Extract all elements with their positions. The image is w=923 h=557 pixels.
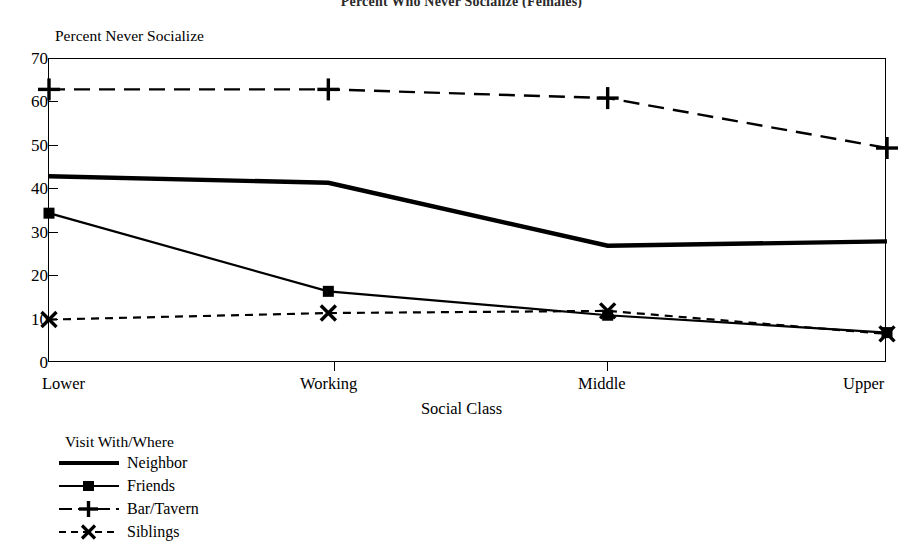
- series-line-friends: [49, 213, 887, 332]
- legend-label-siblings: Siblings: [123, 522, 179, 541]
- legend-item-neighbor: Neighbor: [57, 451, 357, 474]
- chart-title: Percent Who Never Socialize (Females): [0, 0, 923, 8]
- legend-swatch-siblings-icon: [57, 522, 123, 542]
- legend-label-friends: Friends: [123, 476, 175, 495]
- x-tick-label-working: Working: [300, 374, 357, 393]
- legend-swatch-friends-icon: [57, 476, 123, 496]
- series-line-neighbor: [49, 176, 887, 245]
- series-line-siblings: [49, 311, 887, 334]
- legend-item-bar-tavern: Bar/Tavern: [57, 497, 357, 520]
- y-tick-label-60: 60: [8, 93, 48, 110]
- x-tick-label-middle: Middle: [578, 374, 626, 393]
- series-line-bar-tavern: [49, 89, 887, 148]
- y-axis-title: Percent Never Socialize: [55, 27, 204, 45]
- x-tick-mark-middle: [607, 362, 608, 371]
- chart-legend: Visit With/Where Neighbor Friends: [57, 432, 357, 543]
- legend-item-siblings: Siblings: [57, 520, 357, 543]
- plot-lines: [49, 59, 887, 363]
- y-tick-label-70: 70: [8, 50, 48, 67]
- data-point-bar-tavern-middle: [597, 87, 619, 109]
- legend-swatch-neighbor-icon: [57, 453, 123, 473]
- data-point-friends-lower: [44, 208, 55, 219]
- legend-label-bar-tavern: Bar/Tavern: [123, 499, 199, 518]
- legend-swatch-bar-tavern-icon: [57, 499, 123, 519]
- y-tick-label-40: 40: [8, 180, 48, 197]
- legend-label-neighbor: Neighbor: [123, 453, 187, 472]
- x-tick-label-lower: Lower: [42, 374, 85, 393]
- x-axis-title: Social Class: [0, 399, 923, 418]
- y-tick-label-20: 20: [8, 267, 48, 284]
- data-point-bar-tavern-upper: [876, 137, 898, 159]
- chart-figure: Percent Who Never Socialize (Females) Pe…: [0, 0, 923, 557]
- plot-area: [48, 58, 886, 362]
- x-tick-mark-working: [334, 362, 335, 371]
- y-tick-label-50: 50: [8, 137, 48, 154]
- y-tick-label-0: 0: [8, 354, 48, 371]
- y-tick-label-30: 30: [8, 224, 48, 241]
- data-point-friends-working: [323, 286, 334, 297]
- legend-item-friends: Friends: [57, 474, 357, 497]
- data-point-bar-tavern-working: [317, 78, 339, 100]
- x-tick-label-upper: Upper: [843, 374, 884, 393]
- legend-title: Visit With/Where: [65, 432, 357, 451]
